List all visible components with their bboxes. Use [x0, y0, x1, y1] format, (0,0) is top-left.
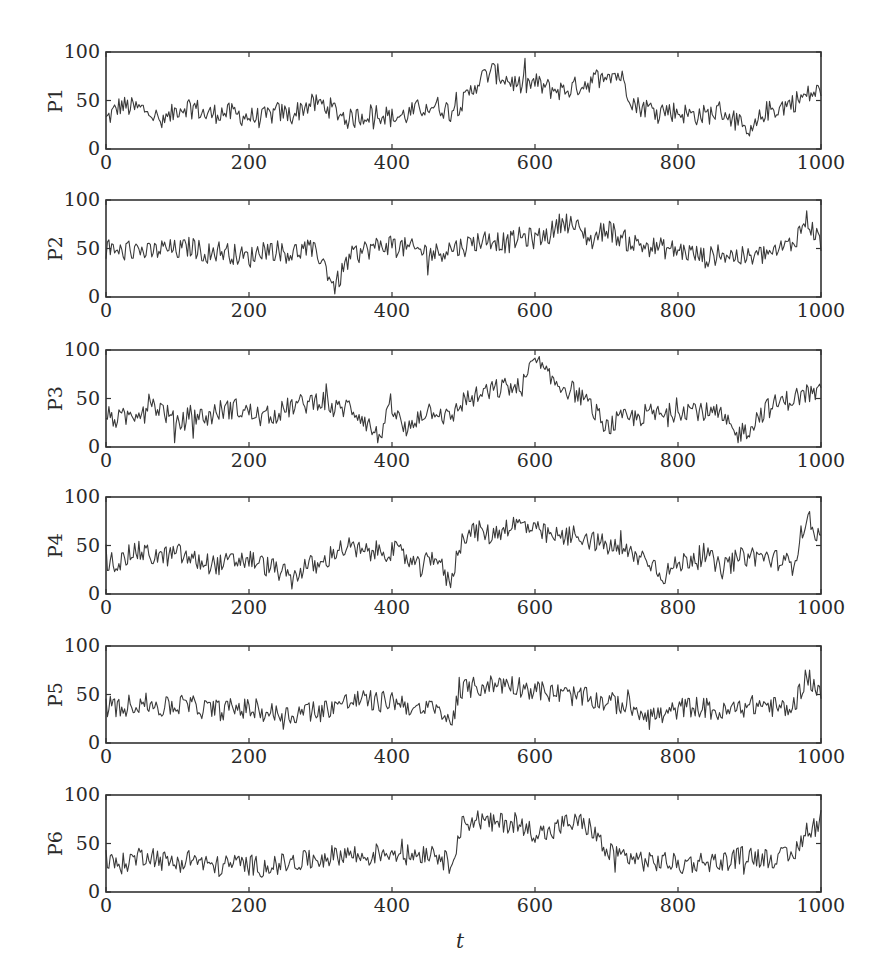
x-tick-label: 600 [517, 745, 553, 767]
x-tick-label: 400 [374, 894, 410, 916]
x-tick-label: 800 [660, 151, 696, 173]
x-tick-label: 1000 [797, 894, 845, 916]
y-tick-label: 100 [64, 485, 100, 507]
chart-figure: t 02004006008001000050100P10200400600800… [0, 0, 876, 976]
x-tick-label: 200 [231, 596, 267, 618]
series-p2 [106, 211, 821, 294]
x-tick-label: 200 [231, 151, 267, 173]
x-tick-label: 400 [374, 151, 410, 173]
y-tick-label: 100 [64, 338, 100, 360]
x-tick-label: 800 [660, 894, 696, 916]
y-axis-label: P2 [44, 236, 66, 261]
x-tick-label: 0 [100, 151, 112, 173]
y-tick-label: 50 [76, 89, 100, 111]
x-tick-label: 600 [517, 449, 553, 471]
series-p1 [106, 58, 821, 136]
y-tick-label: 50 [76, 387, 100, 409]
plot-frame [106, 795, 821, 892]
x-tick-label: 0 [100, 449, 112, 471]
x-tick-label: 200 [231, 745, 267, 767]
x-tick-label: 800 [660, 449, 696, 471]
y-tick-label: 50 [76, 832, 100, 854]
y-axis-label: P5 [44, 682, 66, 707]
plot-frame [106, 497, 821, 594]
x-tick-label: 1000 [797, 745, 845, 767]
x-tick-label: 800 [660, 299, 696, 321]
x-tick-label: 200 [231, 299, 267, 321]
y-tick-label: 0 [88, 582, 100, 604]
y-tick-label: 0 [88, 731, 100, 753]
y-tick-label: 0 [88, 285, 100, 307]
y-tick-label: 50 [76, 237, 100, 259]
series-p5 [106, 670, 821, 729]
x-tick-label: 600 [517, 151, 553, 173]
x-tick-label: 600 [517, 596, 553, 618]
x-tick-label: 400 [374, 596, 410, 618]
x-axis-title: t [456, 929, 465, 953]
x-tick-label: 800 [660, 745, 696, 767]
panel-p2: 02004006008001000050100P2 [44, 188, 845, 321]
x-tick-label: 200 [231, 894, 267, 916]
y-axis-label: P3 [44, 386, 66, 411]
x-tick-label: 0 [100, 894, 112, 916]
x-tick-label: 200 [231, 449, 267, 471]
y-axis-label: P6 [44, 831, 66, 856]
panel-p4: 02004006008001000050100P4 [44, 485, 845, 618]
series-p4 [106, 512, 821, 590]
x-tick-label: 1000 [797, 299, 845, 321]
y-tick-label: 100 [64, 40, 100, 62]
y-tick-label: 0 [88, 137, 100, 159]
x-tick-label: 0 [100, 299, 112, 321]
x-tick-label: 400 [374, 745, 410, 767]
series-p6 [106, 810, 821, 877]
plot-frame [106, 52, 821, 149]
y-tick-label: 0 [88, 435, 100, 457]
x-tick-label: 0 [100, 596, 112, 618]
plot-frame [106, 646, 821, 743]
x-tick-label: 400 [374, 299, 410, 321]
x-tick-label: 600 [517, 299, 553, 321]
x-tick-label: 400 [374, 449, 410, 471]
x-tick-label: 0 [100, 745, 112, 767]
y-tick-label: 50 [76, 683, 100, 705]
panel-p6: 02004006008001000050100P6 [44, 783, 845, 916]
x-tick-label: 800 [660, 596, 696, 618]
x-tick-label: 600 [517, 894, 553, 916]
y-tick-label: 100 [64, 783, 100, 805]
y-tick-label: 100 [64, 188, 100, 210]
x-tick-label: 1000 [797, 449, 845, 471]
panel-p1: 02004006008001000050100P1 [44, 40, 845, 173]
x-tick-label: 1000 [797, 596, 845, 618]
x-tick-label: 1000 [797, 151, 845, 173]
y-tick-label: 50 [76, 534, 100, 556]
y-tick-label: 100 [64, 634, 100, 656]
panel-p5: 02004006008001000050100P5 [44, 634, 845, 767]
panel-p3: 02004006008001000050100P3 [44, 338, 845, 471]
y-axis-label: P4 [44, 533, 66, 558]
y-tick-label: 0 [88, 880, 100, 902]
series-p3 [106, 357, 821, 443]
y-axis-label: P1 [44, 88, 66, 113]
